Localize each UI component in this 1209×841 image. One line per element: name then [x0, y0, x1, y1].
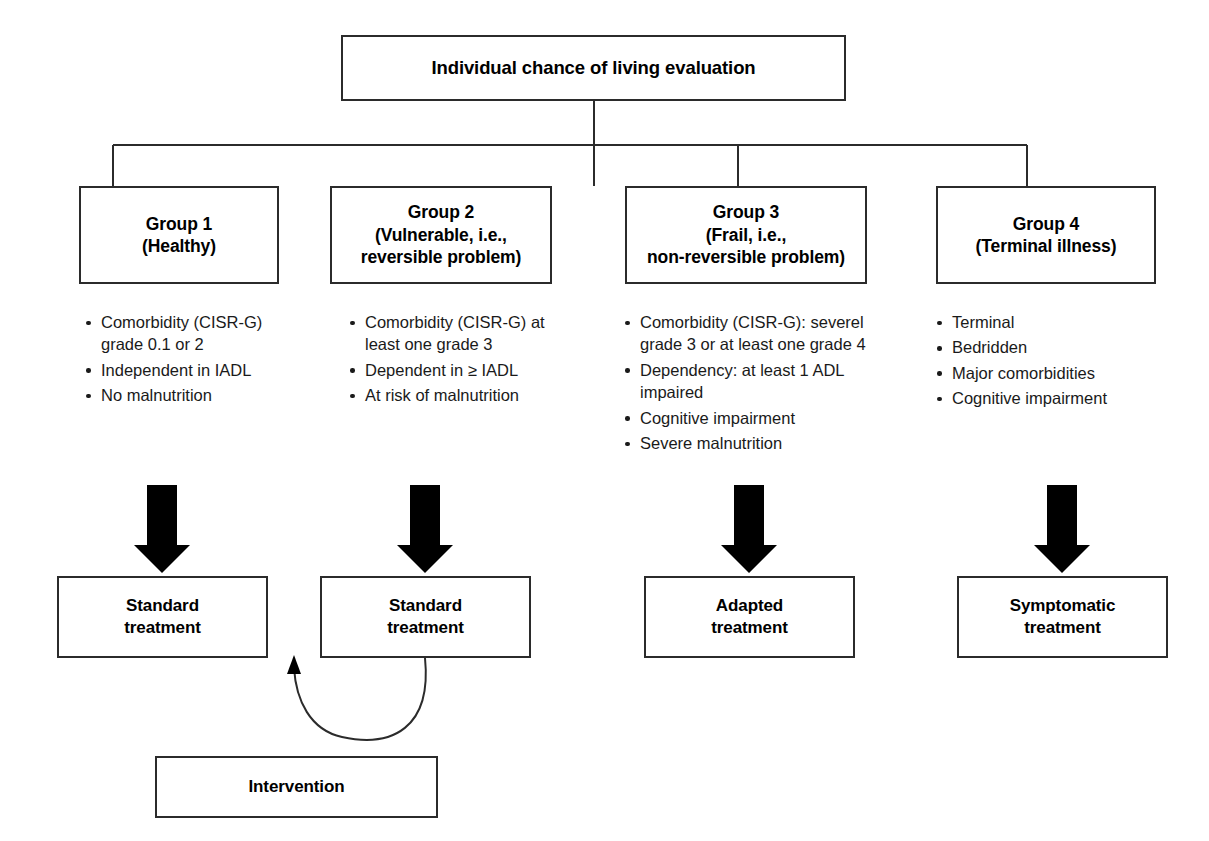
group-3-label: Group 3 (Frail, i.e., non-reversible pro… [647, 201, 845, 268]
criteria-list-group-4: Terminal Bedridden Major comorbidities C… [935, 311, 1150, 413]
group-4-label: Group 4 (Terminal illness) [976, 213, 1117, 258]
bullet-dot [350, 394, 355, 399]
list-item: No malnutrition [84, 384, 294, 406]
bullet-dot [937, 321, 942, 326]
treatment-3-label: Adapted treatment [711, 595, 788, 639]
node-group-3[interactable]: Group 3 (Frail, i.e., non-reversible pro… [625, 186, 867, 284]
bullet-dot [625, 368, 630, 373]
bullet-dot [86, 368, 91, 373]
list-item: Major comorbidities [935, 362, 1150, 384]
criteria-list-group-3: Comorbidity (CISR-G): severel grade 3 or… [623, 311, 871, 458]
node-group-1[interactable]: Group 1 (Healthy) [79, 186, 279, 284]
feedback-curve [294, 658, 426, 740]
bullet-dot [625, 321, 630, 326]
list-item: At risk of malnutrition [348, 384, 563, 406]
list-item: Comorbidity (CISR-G) at least one grade … [348, 311, 563, 356]
list-item-text: Comorbidity (CISR-G) at least one grade … [365, 313, 545, 353]
list-item: Cognitive impairment [623, 407, 871, 429]
node-treatment-group-1[interactable]: Standard treatment [57, 576, 268, 658]
node-intervention[interactable]: Intervention [155, 756, 438, 818]
bullet-dot [937, 371, 942, 376]
bullet-dot [350, 321, 355, 326]
node-group-2[interactable]: Group 2 (Vulnerable, i.e., reversible pr… [330, 186, 552, 284]
feedback-arrowhead [287, 655, 301, 674]
list-item-text: Comorbidity (CISR-G): severel grade 3 or… [640, 313, 866, 353]
bullet-dot [937, 346, 942, 351]
list-item-text: Cognitive impairment [952, 389, 1107, 407]
criteria-list-group-1: Comorbidity (CISR-G) grade 0.1 or 2 Inde… [84, 311, 294, 410]
treatment-2-label: Standard treatment [387, 595, 464, 639]
connector-layer [0, 0, 1209, 841]
root-label: Individual chance of living evaluation [431, 56, 755, 80]
list-item: Terminal [935, 311, 1150, 333]
list-item: Dependency: at least 1 ADL impaired [623, 359, 871, 404]
list-item-text: Cognitive impairment [640, 409, 795, 427]
node-treatment-group-2[interactable]: Standard treatment [320, 576, 531, 658]
bullet-dot [937, 397, 942, 402]
flowchart-diagram: Individual chance of living evaluation G… [0, 0, 1209, 841]
list-item: Bedridden [935, 336, 1150, 358]
list-item: Independent in IADL [84, 359, 294, 381]
list-item-text: Independent in IADL [101, 361, 251, 379]
group-2-label: Group 2 (Vulnerable, i.e., reversible pr… [361, 201, 522, 268]
list-item-text: Comorbidity (CISR-G) grade 0.1 or 2 [101, 313, 262, 353]
intervention-label: Intervention [248, 776, 344, 798]
list-item-text: Terminal [952, 313, 1014, 331]
block-arrow-group-2 [397, 485, 453, 573]
block-arrow-group-3 [721, 485, 777, 573]
list-item-text: Bedridden [952, 338, 1027, 356]
node-root[interactable]: Individual chance of living evaluation [341, 35, 846, 101]
node-treatment-group-4[interactable]: Symptomatic treatment [957, 576, 1168, 658]
bullet-dot [86, 394, 91, 399]
list-item-text: Dependent in ≥ IADL [365, 361, 518, 379]
list-item: Dependent in ≥ IADL [348, 359, 563, 381]
bullet-dot [625, 416, 630, 421]
node-treatment-group-3[interactable]: Adapted treatment [644, 576, 855, 658]
bullet-dot [625, 442, 630, 447]
list-item: Comorbidity (CISR-G) grade 0.1 or 2 [84, 311, 294, 356]
list-item-text: Dependency: at least 1 ADL impaired [640, 361, 844, 401]
list-item-text: At risk of malnutrition [365, 386, 519, 404]
bullet-dot [350, 368, 355, 373]
list-item-text: Major comorbidities [952, 364, 1095, 382]
list-item-text: Severe malnutrition [640, 434, 782, 452]
criteria-list-group-2: Comorbidity (CISR-G) at least one grade … [348, 311, 563, 410]
block-arrow-group-1 [134, 485, 190, 573]
node-group-4[interactable]: Group 4 (Terminal illness) [936, 186, 1156, 284]
list-item-text: No malnutrition [101, 386, 212, 404]
treatment-1-label: Standard treatment [124, 595, 201, 639]
list-item: Comorbidity (CISR-G): severel grade 3 or… [623, 311, 871, 356]
bullet-dot [86, 321, 91, 326]
block-arrow-group-4 [1034, 485, 1090, 573]
list-item: Severe malnutrition [623, 432, 871, 454]
treatment-4-label: Symptomatic treatment [1010, 595, 1116, 639]
list-item: Cognitive impairment [935, 387, 1150, 409]
group-1-label: Group 1 (Healthy) [142, 213, 216, 258]
